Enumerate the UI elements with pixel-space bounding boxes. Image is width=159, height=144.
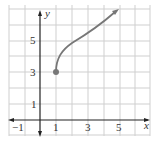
curve xyxy=(56,12,115,72)
y-tick-3: 3 xyxy=(30,66,36,78)
start-point xyxy=(53,69,59,75)
x-tick-5: 5 xyxy=(116,121,122,133)
x-tick-neg1: −1 xyxy=(12,121,24,133)
x-axis-label: x xyxy=(143,119,149,131)
y-tick-5: 5 xyxy=(30,34,36,46)
x-tick-3: 3 xyxy=(85,121,91,133)
x-tick-1: 1 xyxy=(53,121,59,133)
y-axis-label: y xyxy=(44,7,50,19)
y-tick-1: 1 xyxy=(31,98,37,110)
graph: y x −1 1 3 5 1 3 5 xyxy=(0,0,159,144)
